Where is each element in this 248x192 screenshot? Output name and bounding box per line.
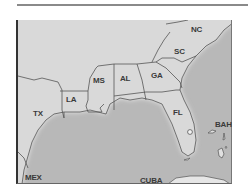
southeast-us-map bbox=[18, 20, 232, 184]
label-ga: GA bbox=[151, 72, 163, 80]
label-tx: TX bbox=[33, 110, 43, 118]
label-bah: BAH bbox=[215, 121, 232, 129]
label-nc: NC bbox=[191, 26, 202, 34]
label-la: LA bbox=[66, 96, 76, 104]
lake-okeechobee bbox=[188, 130, 193, 135]
map-frame bbox=[16, 20, 232, 184]
top-divider bbox=[17, 4, 248, 6]
label-sc: SC bbox=[174, 48, 185, 56]
label-fl: FL bbox=[173, 109, 182, 117]
label-cuba: CUBA bbox=[140, 177, 162, 185]
label-al: AL bbox=[120, 75, 130, 83]
label-mex: MEX bbox=[25, 174, 42, 182]
label-ms: MS bbox=[93, 77, 105, 85]
